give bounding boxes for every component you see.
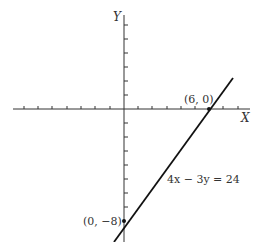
y-axis-ticks: [124, 25, 128, 207]
equation-label: 4x − 3y = 24: [167, 173, 240, 186]
x-intercept-label: (6, 0): [184, 93, 214, 106]
x-axis: [13, 106, 250, 109]
point-y-intercept: [122, 219, 126, 223]
graph-canvas: Y X (6, 0) (0, −8) 4x − 3y = 24: [0, 0, 264, 242]
y-axis: [124, 15, 128, 242]
point-x-intercept: [207, 107, 211, 111]
y-intercept-label: (0, −8): [83, 215, 122, 228]
x-axis-label: X: [240, 111, 250, 125]
y-axis-label: Y: [113, 10, 122, 24]
equation-line: [114, 78, 233, 242]
